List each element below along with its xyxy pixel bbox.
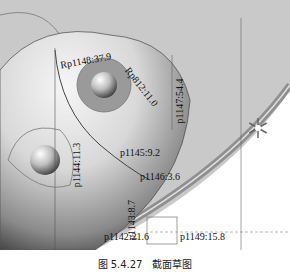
dim-p1146[interactable]: p1146:3.6	[140, 172, 180, 182]
dim-p1147[interactable]: p1147:54.4	[175, 79, 185, 124]
sketch-canvas	[0, 0, 290, 250]
dim-p1142[interactable]: p1142:21.6	[104, 232, 149, 242]
dim-p1145[interactable]: p1145:9.2	[120, 148, 160, 158]
ball-lower	[30, 145, 60, 175]
ball-upper	[91, 72, 117, 98]
dim-p1149[interactable]: p1149:15.8	[180, 232, 225, 242]
dim-p1144[interactable]: p1144:11.3	[72, 143, 82, 188]
figure-caption: 图 5.4.27 截面草图	[0, 256, 290, 271]
